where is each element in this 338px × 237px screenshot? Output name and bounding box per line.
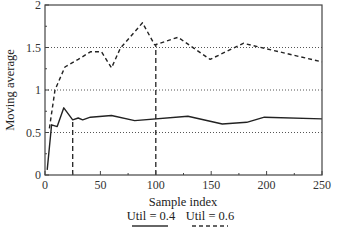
tick-labels: 05010015020025000.511.52: [26, 0, 331, 192]
legend-label: Util = 0.6: [186, 209, 234, 223]
series-util-0-6-line: [49, 23, 322, 129]
x-tick-label: 50: [94, 178, 106, 192]
legend-item-util-0-6: Util = 0.6: [186, 209, 234, 226]
x-tick-label: 0: [42, 178, 48, 192]
x-axis-label: Sample index: [149, 195, 218, 209]
legend-label: Util = 0.4: [127, 209, 176, 223]
y-tick-label: 2: [35, 0, 41, 12]
y-axis-label: Moving average: [3, 49, 17, 131]
x-tick-label: 150: [202, 178, 220, 192]
x-tick-label: 100: [147, 178, 165, 192]
y-tick-label: 1: [35, 83, 41, 97]
y-tick-label: 1.5: [26, 41, 41, 55]
line-chart: 05010015020025000.511.52 Sample index Mo…: [0, 0, 338, 237]
x-tick-label: 250: [313, 178, 331, 192]
x-tick-label: 200: [258, 178, 276, 192]
series-lines: [47, 23, 322, 170]
y-tick-label: 0.5: [26, 126, 41, 140]
grid-lines: [45, 48, 322, 133]
annotation-lines: [73, 45, 156, 175]
y-tick-label: 0: [35, 168, 41, 182]
series-util-0-4-line: [47, 108, 322, 170]
legend-item-util-0-4: Util = 0.4: [127, 209, 176, 226]
legend: Util = 0.4 Util = 0.6: [127, 209, 234, 226]
